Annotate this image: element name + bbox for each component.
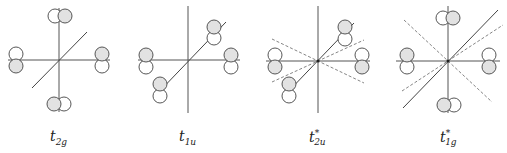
orbital-top [436, 11, 460, 25]
panel-t1u [138, 6, 240, 113]
orbital-lower-left [153, 77, 167, 103]
orbital-upper-right [338, 20, 352, 46]
label-t1u: t1u [179, 128, 196, 147]
label-t2g: t2g [50, 128, 67, 147]
orbital-left [139, 48, 153, 74]
panel-t2g [8, 8, 110, 112]
label-t2u-star: t*2u [309, 128, 326, 147]
orbital-right [224, 48, 238, 74]
panel-t1g-star [396, 6, 503, 113]
label-t1g-star: t*1g [440, 128, 457, 147]
orbital-symmetry-diagrams [0, 0, 507, 153]
orbital-lower-left [282, 77, 296, 103]
orbital-bottom [437, 98, 461, 112]
orbital-top [48, 9, 72, 23]
orbital-bottom [47, 97, 71, 111]
panel-t2u-star [266, 6, 370, 113]
orbital-upper-right [207, 20, 221, 45]
